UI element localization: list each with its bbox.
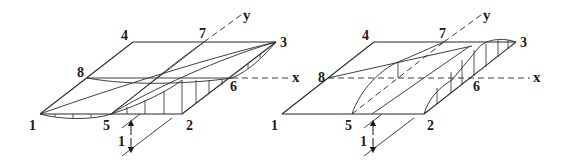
load-label: 1 — [118, 134, 125, 149]
load-line-lower — [122, 118, 172, 156]
node-label-8: 8 — [77, 65, 84, 80]
y-axis-line — [444, 12, 485, 42]
x-axis-label: x — [292, 69, 300, 85]
y-axis-label: y — [483, 7, 491, 23]
node-label-1: 1 — [29, 118, 36, 133]
node-label-5: 5 — [103, 118, 110, 133]
node-label-6: 6 — [473, 79, 480, 94]
x-axis-label: x — [533, 69, 541, 85]
node-label-8: 8 — [318, 70, 325, 85]
node-label-5: 5 — [345, 118, 352, 133]
node-label-6: 6 — [230, 79, 237, 94]
curve-8-6 — [87, 78, 232, 83]
node-label-7: 7 — [199, 26, 206, 41]
node-label-3: 3 — [280, 35, 287, 50]
right-panel: 1 2 3 4 5 6 7 8 y x 1 — [271, 7, 541, 156]
node-label-4: 4 — [121, 28, 128, 43]
y-axis-line — [204, 12, 245, 42]
node-label-2: 2 — [186, 118, 193, 133]
line-8-ridge — [328, 46, 472, 78]
curve-2-rise — [424, 80, 452, 114]
node-label-4: 4 — [362, 28, 369, 43]
node-label-3: 3 — [520, 35, 527, 50]
left-panel: 1 2 3 4 5 6 7 8 y x 1 — [29, 7, 300, 156]
line-ridge-diag — [372, 46, 470, 114]
load-label: 1 — [360, 134, 367, 149]
node-label-2: 2 — [427, 118, 434, 133]
node-label-7: 7 — [439, 26, 446, 41]
diagram-canvas: 1 2 3 4 5 6 7 8 y x 1 — [0, 0, 567, 168]
node-label-1: 1 — [271, 118, 278, 133]
y-axis-label: y — [243, 7, 251, 23]
line-ridge-6 — [452, 46, 480, 80]
curve-5-ridge — [111, 80, 182, 114]
load-line-lower — [364, 118, 414, 156]
curve-1-5 — [40, 114, 111, 119]
